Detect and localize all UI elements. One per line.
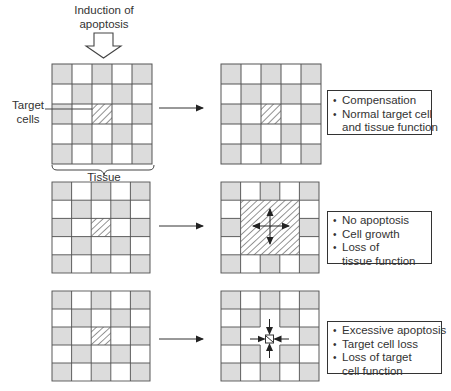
- induction-label: Induction of apoptosis: [62, 3, 146, 31]
- outcome-item: Loss oftissue function: [333, 241, 427, 268]
- target-cells-label-line1: Target: [9, 98, 47, 112]
- tissue-grid-result-compensation: [221, 64, 321, 164]
- outcome-item: Compensation: [333, 94, 427, 108]
- induction-label-line1: Induction of: [62, 3, 146, 17]
- outcome-item: Excessive apoptosis: [333, 324, 437, 338]
- tissue-grid-initial-2: [52, 182, 150, 273]
- outcome-item: Normal target celland tissue function: [333, 108, 427, 135]
- outcome-item: No apoptosis: [333, 214, 427, 228]
- induction-arrow-icon: [86, 33, 121, 58]
- target-cell: [92, 104, 112, 124]
- tissue-grid-initial-3: [52, 291, 150, 381]
- induction-label-line2: apoptosis: [62, 17, 146, 31]
- outcome-box-no-apoptosis: No apoptosis Cell growth Loss oftissue f…: [327, 211, 432, 264]
- shrunken-target-cell: [266, 335, 274, 343]
- tissue-label-text: Tissue: [87, 171, 120, 183]
- target-cells-label: Target cells: [9, 98, 47, 126]
- outcome-item: Cell growth: [333, 228, 427, 242]
- outcome-box-excessive-apoptosis: Excessive apoptosis Target cell loss Los…: [327, 321, 442, 374]
- outcome-box-compensation: Compensation Normal target celland tissu…: [327, 90, 432, 135]
- tissue-grid-initial-1: [52, 64, 152, 164]
- tissue-label: Tissue: [74, 170, 134, 184]
- outcome-item: Target cell loss: [333, 338, 437, 352]
- outcome-item: Loss of targetcell function: [333, 351, 437, 378]
- target-cells-label-line2: cells: [9, 112, 47, 126]
